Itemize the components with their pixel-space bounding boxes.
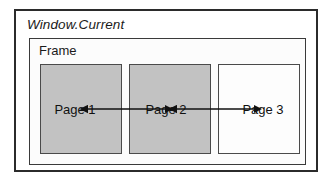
page-label-2: Page 2 <box>145 102 186 117</box>
frame-title: Frame <box>39 43 77 58</box>
page-box-2: Page 2 <box>129 64 211 154</box>
page-label-3: Page 3 <box>242 102 283 117</box>
pages-row: Page 1 Page 2 Page 3 <box>40 64 298 154</box>
window-current-title: Window.Current <box>27 17 124 33</box>
page-box-3: Page 3 <box>218 64 300 154</box>
page-label-1: Page 1 <box>54 102 95 117</box>
frame-container: Frame Page 1 Page 2 Page 3 <box>29 38 306 165</box>
diagram-canvas: Window.Current Frame Page 1 Page 2 Page … <box>0 0 334 184</box>
page-box-1: Page 1 <box>40 64 122 154</box>
window-current-container: Window.Current Frame Page 1 Page 2 Page … <box>14 9 318 172</box>
